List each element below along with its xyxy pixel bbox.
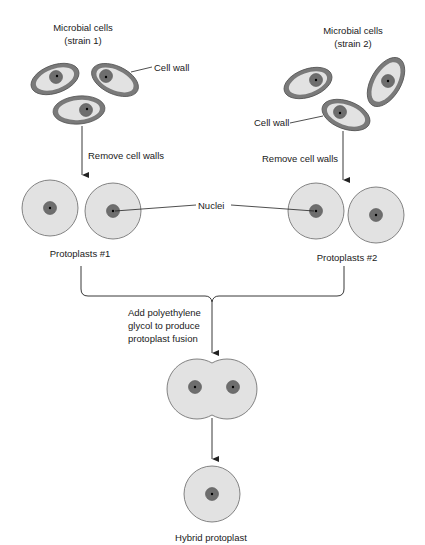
strain1-cells [27, 57, 144, 126]
fusion-label-line1: Add polyethylene [128, 307, 201, 318]
strain1-label-line1: Microbial cells [53, 22, 113, 33]
protoplast-fusion-diagram: Microbial cells (strain 1) Microbial cel… [0, 0, 425, 545]
strain2-label-line1: Microbial cells [323, 25, 383, 36]
strain2-cells [280, 51, 413, 137]
protoplasts-1-label: Protoplasts #1 [50, 248, 111, 259]
hybrid-protoplast-label: Hybrid protoplast [175, 532, 247, 543]
fusion-label-line2: glycol to produce [128, 320, 200, 331]
protoplasts-1 [22, 180, 141, 239]
cell-wall-pointer-1 [131, 67, 152, 72]
strain1-cell [86, 57, 143, 104]
merge-bracket [81, 266, 344, 302]
cell-wall-label-1: Cell wall [154, 62, 189, 73]
fusion-label-line3: protoplast fusion [128, 333, 198, 344]
nuclei-label: Nuclei [198, 200, 224, 211]
strain2-label-line2: (strain 2) [334, 38, 371, 49]
cell-wall-pointer-2 [290, 116, 323, 123]
remove-walls-label-2: Remove cell walls [262, 153, 338, 164]
protoplasts-2-label: Protoplasts #2 [317, 252, 378, 263]
hybrid-protoplast [184, 466, 240, 522]
remove-walls-label-1: Remove cell walls [88, 150, 164, 161]
fused-protoplast [167, 359, 257, 419]
strain1-label-line2: (strain 1) [64, 35, 101, 46]
strain2-cell [280, 61, 337, 104]
protoplasts-2 [288, 183, 404, 243]
strain1-cell [52, 94, 106, 126]
cell-wall-label-2: Cell wall [254, 117, 289, 128]
